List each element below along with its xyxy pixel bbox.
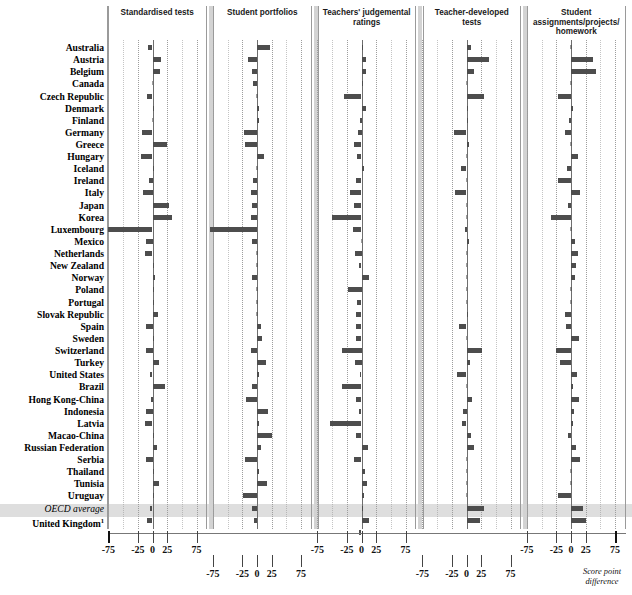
- bar-2-11: [356, 178, 362, 183]
- axis-tick-teachers-judgemental-ratings--25: [347, 531, 348, 543]
- axis-tick-standardised-tests-0: [153, 531, 154, 543]
- bar-2-39: [362, 518, 369, 523]
- gridline-minor-student-assignments-50: [600, 40, 601, 529]
- bar-1-0: [257, 45, 270, 50]
- zero-line-teacher-developed-tests: [467, 40, 468, 529]
- bar-1-29: [246, 397, 257, 402]
- bar-0-17: [145, 251, 152, 256]
- bar-3-34: [466, 457, 468, 461]
- bar-4-23: [566, 324, 571, 329]
- axis-tick-standardised-tests-75: [197, 531, 198, 543]
- bar-1-39: [254, 518, 258, 523]
- bar-4-31: [571, 421, 573, 426]
- bar-4-9: [571, 154, 578, 159]
- row-label-belgium: Belgium: [0, 67, 104, 77]
- bar-2-18: [359, 263, 361, 268]
- bar-1-4: [256, 94, 258, 98]
- bar-3-28: [466, 384, 468, 388]
- bar-3-23: [459, 324, 467, 329]
- bar-2-12: [350, 190, 361, 195]
- bar-2-34: [354, 457, 362, 462]
- axis-tick-label-standardised-tests-75: 75: [183, 544, 211, 555]
- bar-2-13: [354, 203, 361, 208]
- bar-4-32: [568, 433, 571, 438]
- zero-line-student-assignments: [571, 40, 572, 529]
- bar-3-39: [467, 518, 481, 523]
- row-label-australia: Australia: [0, 43, 104, 53]
- bar-0-38: [150, 506, 152, 511]
- bar-1-5: [257, 106, 259, 111]
- axis-tick-student-portfolios--75: [213, 555, 214, 567]
- axis-tick-teacher-developed-tests-25: [481, 555, 482, 567]
- bar-1-7: [244, 130, 257, 135]
- row-label-hong-kong-china: Hong Kong-China: [0, 395, 104, 405]
- bar-4-16: [571, 239, 575, 244]
- bar-4-26: [560, 360, 571, 365]
- bar-1-31: [257, 421, 259, 426]
- bar-4-27: [571, 372, 577, 377]
- axis-tick-teachers-judgemental-ratings-25: [376, 531, 377, 543]
- bar-4-21: [570, 300, 572, 304]
- gridline-teacher-developed-tests--75: [422, 40, 423, 529]
- bar-0-26: [153, 360, 160, 365]
- bar-3-2: [467, 69, 474, 74]
- axis-tick-label-teachers-judgemental-ratings--75: -75: [303, 544, 331, 555]
- axis-tick-student-assignments-75: [615, 531, 617, 543]
- gridline-teachers-judgemental-ratings--75: [317, 40, 318, 529]
- bar-4-35: [570, 469, 572, 473]
- bar-3-15: [465, 227, 467, 232]
- axis-tick-student-portfolios-75: [301, 555, 302, 567]
- axis-tick-teachers-judgemental-ratings-0: [362, 531, 363, 543]
- bar-0-13: [153, 203, 170, 208]
- bar-2-38: [362, 506, 364, 511]
- bar-2-0: [362, 45, 364, 50]
- bar-3-12: [455, 190, 466, 195]
- bar-0-8: [153, 142, 167, 147]
- bar-1-6: [257, 118, 259, 123]
- bar-2-29: [356, 397, 361, 402]
- bar-4-34: [571, 457, 580, 462]
- bar-3-13: [466, 203, 468, 207]
- bar-4-7: [565, 130, 571, 135]
- bar-2-35: [362, 469, 366, 474]
- gridline-teachers-judgemental-ratings--25: [347, 40, 348, 529]
- bar-1-20: [256, 287, 258, 291]
- row-label-korea: Korea: [0, 213, 104, 223]
- gridline-teacher-developed-tests-25: [481, 40, 482, 529]
- bar-3-5: [467, 106, 469, 111]
- bar-1-36: [257, 481, 267, 486]
- bar-1-18: [256, 263, 258, 267]
- gridline-student-assignments--25: [556, 40, 557, 529]
- bar-2-36: [362, 481, 367, 486]
- bar-0-39: [147, 518, 153, 523]
- bar-2-30: [359, 409, 361, 414]
- bar-0-1: [153, 57, 161, 62]
- axis-tick-teacher-developed-tests--75: [422, 555, 423, 567]
- bar-0-28: [153, 384, 166, 389]
- bar-3-25: [467, 348, 482, 353]
- zero-line-student-portfolios: [257, 40, 258, 529]
- row-label-czech-republic: Czech Republic: [0, 92, 104, 102]
- bar-1-17: [256, 251, 258, 255]
- bar-1-37: [243, 493, 257, 498]
- row-label-serbia: Serbia: [0, 455, 104, 465]
- bar-0-30: [146, 409, 153, 414]
- bar-2-3: [362, 81, 364, 86]
- bar-3-37: [466, 493, 468, 497]
- bar-0-36: [153, 481, 160, 486]
- bar-1-34: [245, 457, 257, 462]
- bar-3-16: [467, 239, 469, 244]
- axis-tick-teacher-developed-tests-75: [511, 555, 512, 567]
- bar-3-38: [467, 506, 484, 511]
- bar-0-25: [146, 348, 153, 353]
- panel-title-line: Standardised tests: [102, 8, 213, 18]
- row-label-finland: Finland: [0, 116, 104, 126]
- bar-1-15: [210, 227, 257, 232]
- bar-4-6: [569, 118, 571, 123]
- bar-4-12: [571, 190, 580, 195]
- bar-3-4: [467, 94, 485, 99]
- row-label-sweden: Sweden: [0, 334, 104, 344]
- bar-3-27: [457, 372, 466, 377]
- row-label-thailand: Thailand: [0, 467, 104, 477]
- bar-1-22: [256, 312, 258, 316]
